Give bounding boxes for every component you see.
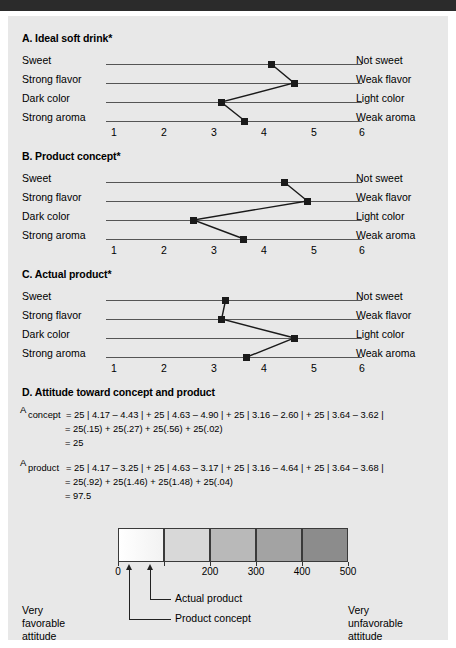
panel-b-tick-0: 1 [104,244,124,256]
panel-a-title: A. Ideal soft drink* [22,32,112,44]
panel-b-right-label-3: Weak aroma [356,229,456,241]
panel-a-right-label-2: Light color [356,92,456,104]
panel-a-left-label-0: Sweet [22,54,118,66]
scale-label-400: 400 [289,566,315,577]
scale-segment-2 [210,528,256,562]
panel-b-tick-1: 2 [154,244,174,256]
panel-c-marker-2 [291,335,298,342]
panel-b-marker-3 [240,236,247,243]
panel-b-axis-0 [106,182,362,183]
panel-b-left-label-3: Strong aroma [22,229,118,241]
product-concept-leader-horizontal [129,619,171,620]
panel-a-right-label-1: Weak flavor [356,73,456,85]
panel-c-left-label-2: Dark color [22,328,118,340]
panel-b-right-label-0: Not sweet [356,172,456,184]
panel-a-axis-3 [106,121,362,122]
panel-a-marker-2 [218,99,225,106]
panel-c-marker-0 [222,297,229,304]
panel-a-marker-0 [268,61,275,68]
panel-a-tick-1: 2 [154,126,174,138]
product-subscript: product [28,463,59,473]
panel-c-tick-4: 5 [304,362,324,374]
panel-b-axis-1 [106,201,362,202]
product-line-3: = 97.5 [65,491,91,501]
panel-b-marker-2 [190,217,197,224]
panel-b-marker-0 [281,179,288,186]
panel-c-axis-3 [106,357,362,358]
panel-b-left-label-2: Dark color [22,210,118,222]
panel-b-marker-1 [304,198,311,205]
panel-c-right-label-0: Not sweet [356,290,456,302]
panel-b-tick-3: 4 [254,244,274,256]
panel-b-axis-3 [106,239,362,240]
scale-right-end-label: Very unfavorable attitude [348,604,403,643]
scale-segment-4 [302,528,348,562]
panel-c-axis-0 [106,300,362,301]
panel-a-tick-5: 6 [352,126,372,138]
panel-c-right-label-1: Weak flavor [356,309,456,321]
scale-left-end-label: Very favorable attitude [22,604,65,643]
panel-a-axis-1 [106,83,362,84]
panel-a-marker-3 [241,118,248,125]
scale-label-200: 200 [197,566,223,577]
panel-a-left-label-2: Dark color [22,92,118,104]
product-line-2: = 25(.92) + 25(1.46) + 25(1.48) + 25(.04… [65,477,233,487]
scale-label-300: 300 [243,566,269,577]
scale-left-line-1: favorable [22,617,65,630]
product-concept-label: Product concept [175,612,251,624]
product-line-1: = 25 | 4.17 – 3.25 | + 25 | 4.63 – 3.17 … [66,463,384,473]
panel-a-tick-3: 4 [254,126,274,138]
panel-a-marker-1 [291,80,298,87]
product-symbol: A [20,457,26,468]
panel-b-right-label-2: Light color [356,210,456,222]
scale-label-500: 500 [335,566,361,577]
panel-c-tick-5: 6 [352,362,372,374]
panel-c-left-label-0: Sweet [22,290,118,302]
concept-line-3: = 25 [65,438,83,448]
scale-right-line-0: Very [348,604,403,617]
panel-b-tick-4: 5 [304,244,324,256]
panel-c-right-label-3: Weak aroma [356,347,456,359]
panel-b-tick-5: 6 [352,244,372,256]
panel-b-right-label-1: Weak flavor [356,191,456,203]
panel-c-marker-1 [218,316,225,323]
scale-right-line-1: unfavorable [348,617,403,630]
panel-b-left-label-1: Strong flavor [22,191,118,203]
scale-tick-mark-1 [164,562,165,566]
panel-a-tick-2: 3 [204,126,224,138]
panel-a-tick-4: 5 [304,126,324,138]
actual-product-leader-horizontal [150,599,171,600]
actual-product-leader-vertical [150,570,151,599]
panel-c-title: C. Actual product* [22,268,111,280]
figure-page: A. Ideal soft drink* Sweet Strong flavor… [8,16,448,640]
scale-left-line-0: Very [22,604,65,617]
concept-subscript: concept [28,410,61,420]
scale-segment-0 [118,528,164,562]
scale-right-line-2: attitude [348,630,403,643]
scale-segment-1 [164,528,210,562]
panel-a-left-label-1: Strong flavor [22,73,118,85]
panel-c-left-label-3: Strong aroma [22,347,118,359]
panel-c-axis-1 [106,319,362,320]
panel-a-right-label-0: Not sweet [356,54,456,66]
panel-a-left-label-3: Strong aroma [22,111,118,123]
concept-symbol: A [20,404,26,415]
scale-left-line-2: attitude [22,630,65,643]
panel-c-right-label-2: Light color [356,328,456,340]
panel-c-tick-3: 4 [254,362,274,374]
panel-b-title: B. Product concept* [22,150,120,162]
panel-c-left-label-1: Strong flavor [22,309,118,321]
panel-c-tick-2: 3 [204,362,224,374]
panel-a-tick-0: 1 [104,126,124,138]
panel-c-tick-0: 1 [104,362,124,374]
concept-line-2: = 25(.15) + 25(.27) + 25(.56) + 25(.02) [65,424,223,434]
panel-c-axis-2 [106,338,362,339]
product-concept-leader-vertical [129,570,130,619]
panel-c-marker-3 [243,354,250,361]
concept-line-1: = 25 | 4.17 – 4.43 | + 25 | 4.63 – 4.90 … [66,410,384,420]
panel-c-tick-1: 2 [154,362,174,374]
panel-b-left-label-0: Sweet [22,172,118,184]
panel-d-title: D. Attitude toward concept and product [22,386,215,398]
window-topbar [0,0,456,11]
scale-segment-3 [256,528,302,562]
